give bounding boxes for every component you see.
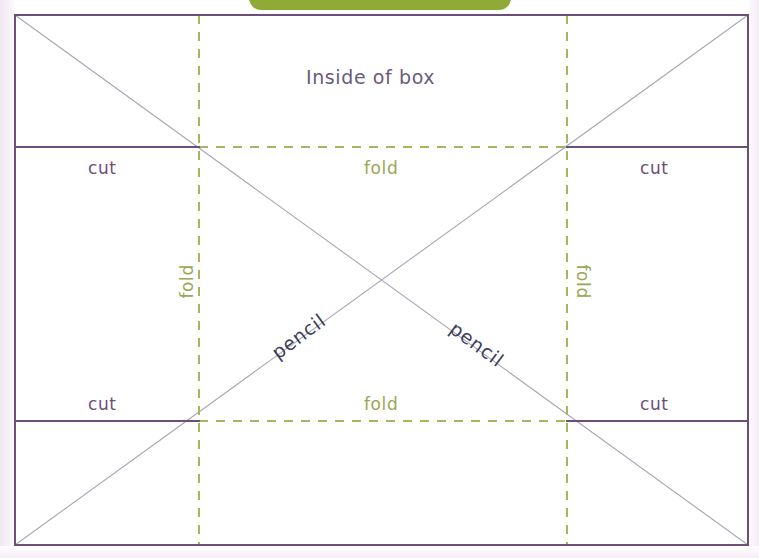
label-fold-left: fold — [179, 265, 196, 299]
label-cut-bottom-right: cut — [640, 396, 669, 413]
label-inside-of-box: Inside of box — [306, 68, 435, 87]
label-cut-bottom-left: cut — [88, 396, 117, 413]
label-cut-top-left: cut — [88, 160, 117, 177]
label-fold-bottom: fold — [364, 396, 398, 413]
label-cut-top-right: cut — [640, 160, 669, 177]
green-title-banner — [249, 0, 511, 10]
diagram-canvas: Inside of box cut fold cut fold fold pen… — [0, 0, 759, 558]
label-fold-top: fold — [364, 160, 398, 177]
label-fold-right: fold — [574, 265, 591, 299]
